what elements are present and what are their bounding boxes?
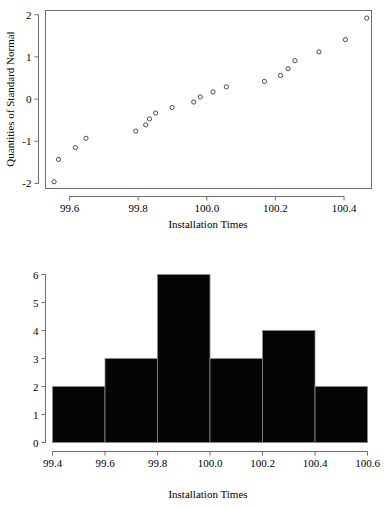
qq-data-point [154, 111, 158, 115]
histogram-y-tick-label: 3 [33, 353, 39, 365]
histogram-bar [158, 275, 211, 443]
qq-data-point [365, 16, 369, 20]
histogram-x-tick-label: 100.0 [198, 457, 223, 469]
histogram-panel: 0123456 99.499.699.8100.0100.2100.4100.6… [0, 240, 385, 508]
qq-data-point [134, 129, 138, 133]
qq-data-point [147, 117, 151, 121]
qq-data-point [52, 180, 56, 184]
qq-y-tick-label: -2 [22, 177, 31, 189]
histogram-y-tick-label: 1 [33, 409, 39, 421]
qq-data-point [224, 85, 228, 89]
qq-y-tick-label: -1 [22, 135, 31, 147]
histogram-x-tick-label: 99.4 [43, 457, 63, 469]
qq-data-point [317, 50, 321, 54]
qq-y-axis: -2-1012 [22, 9, 38, 190]
qq-x-axis: 99.699.8100.0100.2100.4 [60, 197, 357, 214]
histogram-y-tick-label: 0 [33, 437, 39, 449]
statistics-figure: -2-1012 99.699.8100.0100.2100.4 Quantiti… [0, 0, 385, 508]
qq-data-point [144, 123, 148, 127]
qq-data-point [73, 145, 77, 149]
qq-data-point [278, 73, 282, 77]
qq-data-point [293, 59, 297, 63]
qq-data-point [192, 100, 196, 104]
qq-y-tick-label: 1 [26, 51, 32, 63]
qq-data-point [262, 79, 266, 83]
qq-x-tick-label: 99.6 [60, 202, 80, 214]
qq-y-axis-title: Quantities of Standard Normal [4, 31, 16, 166]
qq-data-point [343, 38, 347, 42]
histogram-x-tick-label: 99.6 [95, 457, 115, 469]
histogram-bar [315, 387, 368, 443]
histogram-x-axis-title: Installation Times [168, 488, 247, 500]
histogram-y-axis: 0123456 [33, 269, 46, 449]
qq-data-point [84, 136, 88, 140]
histogram-x-axis: 99.499.699.8100.0100.2100.4100.6 [43, 452, 381, 469]
histogram-y-tick-label: 2 [33, 381, 39, 393]
qq-x-axis-title: Installation Times [168, 218, 247, 230]
qq-plot-frame [46, 11, 372, 189]
histogram-bar [210, 359, 263, 443]
qq-y-tick-label: 2 [26, 9, 32, 21]
histogram-x-tick-label: 100.4 [303, 457, 328, 469]
histogram-svg: 0123456 99.499.699.8100.0100.2100.4100.6… [0, 240, 385, 508]
histogram-x-tick-label: 100.2 [250, 457, 275, 469]
qq-data-point [286, 67, 290, 71]
qq-data-point [211, 90, 215, 94]
histogram-bar [263, 331, 316, 443]
histogram-bar [105, 359, 158, 443]
histogram-y-tick-label: 4 [33, 325, 39, 337]
qq-data-point [170, 105, 174, 109]
histogram-x-tick-label: 99.8 [148, 457, 168, 469]
qq-x-tick-label: 100.2 [263, 202, 288, 214]
histogram-y-tick-label: 6 [33, 269, 39, 281]
qq-plot-svg: -2-1012 99.699.8100.0100.2100.4 Quantiti… [0, 0, 385, 240]
qq-data-points [52, 16, 369, 184]
qq-x-tick-label: 100.4 [332, 202, 357, 214]
histogram-bar [53, 387, 106, 443]
histogram-bars [53, 275, 368, 443]
qq-x-tick-label: 99.8 [129, 202, 149, 214]
normal-quantile-plot-panel: -2-1012 99.699.8100.0100.2100.4 Quantiti… [0, 0, 385, 240]
qq-data-point [198, 95, 202, 99]
histogram-y-tick-label: 5 [33, 297, 39, 309]
qq-data-point [56, 157, 60, 161]
qq-y-tick-label: 0 [26, 93, 32, 105]
qq-x-tick-label: 100.0 [194, 202, 219, 214]
histogram-x-tick-label: 100.6 [355, 457, 380, 469]
